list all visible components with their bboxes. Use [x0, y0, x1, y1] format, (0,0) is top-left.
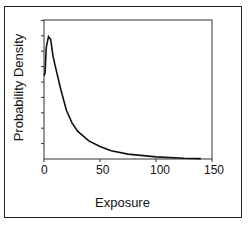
plot-area [44, 20, 212, 159]
x-tick-100: 100 [150, 163, 170, 177]
x-tick-0: 0 [41, 163, 48, 177]
x-tick-50: 50 [96, 163, 109, 177]
y-axis-label: Probability Density [11, 18, 26, 158]
density-plot [0, 0, 249, 227]
x-tick-150: 150 [204, 163, 224, 177]
density-curve [44, 37, 201, 159]
x-axis-label: Exposure [95, 195, 150, 210]
